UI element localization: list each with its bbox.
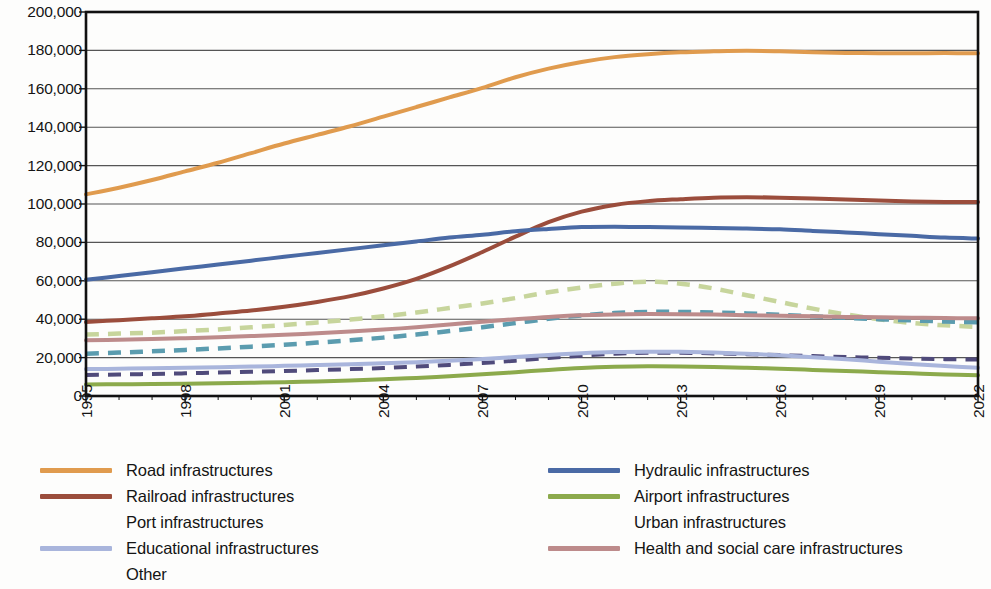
legend-item-label: Hydraulic infrastructures: [634, 462, 809, 479]
legend-swatch-icon: [40, 572, 112, 577]
legend-swatch-icon: [548, 468, 620, 473]
x-axis-tick-label: 2022: [971, 402, 987, 418]
legend-swatch-icon: [548, 520, 620, 525]
legend-swatch-icon: [548, 494, 620, 499]
legend-item-label: Road infrastructures: [126, 462, 273, 479]
legend-item-label: Airport infrastructures: [634, 488, 789, 505]
x-axis-tick-label: 2013: [674, 402, 690, 418]
legend-swatch-icon: [40, 546, 112, 551]
legend-item[interactable]: Railroad infrastructures: [40, 484, 520, 509]
legend-item[interactable]: Port infrastructures: [40, 510, 520, 535]
legend-item-label: Port infrastructures: [126, 514, 263, 531]
legend-item[interactable]: Road infrastructures: [40, 458, 520, 483]
legend-swatch-icon: [40, 520, 112, 525]
legend-swatch-icon: [40, 468, 112, 473]
legend-swatch-icon: [548, 546, 620, 551]
legend-item-label: Health and social care infrastructures: [634, 540, 903, 557]
legend-swatch-icon: [40, 494, 112, 499]
x-axis-labels: 1995199820012004200720102013201620192022: [0, 0, 991, 455]
legend-item[interactable]: Health and social care infrastructures: [548, 536, 988, 561]
legend-item-label: Railroad infrastructures: [126, 488, 294, 505]
x-axis-tick-label: 2004: [376, 402, 392, 418]
x-axis-tick-label: 1998: [178, 402, 194, 418]
legend-column-left: Road infrastructuresRailroad infrastruct…: [40, 458, 520, 588]
legend-item[interactable]: Urban infrastructures: [548, 510, 988, 535]
legend-item-label: Other: [126, 566, 167, 583]
legend-item[interactable]: Educational infrastructures: [40, 536, 520, 561]
x-axis-tick-label: 1995: [79, 402, 95, 418]
x-axis-tick-label: 2001: [277, 402, 293, 418]
legend-item-label: Urban infrastructures: [634, 514, 786, 531]
legend-column-right: Hydraulic infrastructuresAirport infrast…: [548, 458, 988, 562]
line-chart: 020,00040,00060,00080,000100,000120,0001…: [0, 0, 991, 455]
legend-item[interactable]: Airport infrastructures: [548, 484, 988, 509]
chart-page: 020,00040,00060,00080,000100,000120,0001…: [0, 0, 991, 589]
legend-item[interactable]: Other: [40, 562, 520, 587]
legend-item[interactable]: Hydraulic infrastructures: [548, 458, 988, 483]
x-axis-tick-label: 2016: [773, 402, 789, 418]
x-axis-tick-label: 2019: [872, 402, 888, 418]
x-axis-tick-label: 2007: [475, 402, 491, 418]
x-axis-tick-label: 2010: [575, 402, 591, 418]
legend-item-label: Educational infrastructures: [126, 540, 319, 557]
chart-legend: Road infrastructuresRailroad infrastruct…: [0, 458, 991, 589]
